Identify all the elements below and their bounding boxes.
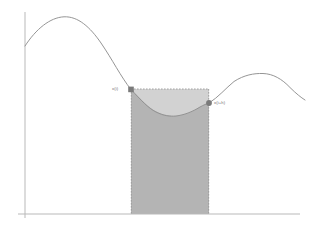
plot-svg bbox=[0, 0, 317, 229]
point-label-xih: x(i+h) bbox=[214, 101, 225, 105]
point-marker-xi bbox=[128, 87, 134, 93]
point-marker-xih bbox=[206, 100, 212, 106]
point-label-xi: x(i) bbox=[112, 87, 118, 91]
figure-canvas: x(i) x(i+h) bbox=[0, 0, 317, 229]
